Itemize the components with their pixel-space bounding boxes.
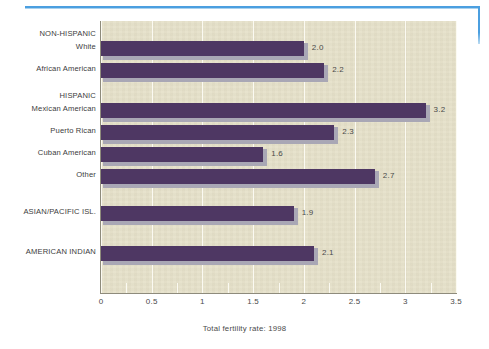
bar-value-label: 1.6 (271, 149, 283, 158)
bar-value-label: 1.9 (302, 208, 314, 217)
minor-tick (202, 283, 203, 293)
x-tick-label: 2 (302, 297, 307, 306)
minor-tick (304, 283, 305, 293)
bar-item: 3.2 (101, 103, 426, 122)
x-tick-label: 1 (200, 297, 205, 306)
bar-item: 2.7 (101, 169, 375, 188)
x-tick-label: 0 (99, 297, 104, 306)
bar (101, 125, 334, 140)
category-label: Cuban American (38, 148, 96, 158)
bar-item: 1.9 (101, 206, 294, 225)
bar-shadow (103, 162, 265, 166)
bar-shadow (103, 78, 326, 82)
bar (101, 206, 294, 221)
x-tick-label: 2.5 (349, 297, 361, 306)
category-label: Puerto Rican (50, 126, 96, 136)
bar (101, 169, 375, 184)
bar (101, 147, 263, 162)
minor-tick (101, 283, 102, 293)
bar (101, 41, 304, 56)
gridline (456, 21, 457, 293)
minor-tick (355, 283, 356, 293)
x-axis-spine (100, 293, 457, 294)
bar-value-label: 2.7 (383, 171, 395, 180)
x-tick-label: 0.5 (146, 297, 158, 306)
x-tick-label: 3.5 (450, 297, 462, 306)
bar-value-label: 2.1 (322, 248, 334, 257)
bar-shadow (103, 140, 336, 144)
minor-tick (431, 283, 432, 293)
minor-tick (177, 283, 178, 293)
bar-shadow (103, 56, 306, 60)
x-tick-label: 3 (403, 297, 408, 306)
bar-item: 1.6 (101, 147, 263, 166)
category-label-group: NON-HISPANICWhiteAfrican AmericanHISPANI… (0, 0, 96, 349)
minor-tick (152, 283, 153, 293)
minor-tick (329, 283, 330, 293)
gridline (355, 21, 356, 293)
bar-value-label: 2.3 (342, 127, 354, 136)
category-label: HISPANIC (59, 91, 96, 101)
category-label: African American (36, 64, 96, 74)
minor-tick (380, 283, 381, 293)
bar-shadow (103, 221, 296, 225)
category-label: Mexican American (32, 104, 96, 114)
bar (101, 63, 324, 78)
minor-tick (253, 283, 254, 293)
minor-tick (126, 283, 127, 293)
bar-shadow (103, 261, 316, 265)
bar-value-label: 2.0 (312, 43, 324, 52)
bar-shadow (103, 184, 377, 188)
minor-tick (279, 283, 280, 293)
minor-tick (228, 283, 229, 293)
minor-tick (456, 283, 457, 293)
bar-value-label: 2.2 (332, 65, 344, 74)
bar-item: 2.3 (101, 125, 334, 144)
bar-item: 2.2 (101, 63, 324, 82)
minor-tick (405, 283, 406, 293)
category-label: NON-HISPANIC (39, 29, 96, 39)
x-tick-label: 1.5 (247, 297, 259, 306)
bar-item: 2.1 (101, 246, 314, 265)
bar-value-label: 3.2 (434, 105, 446, 114)
fertility-rate-bar-chart: 00.511.522.533.5 NON-HISPANICWhiteAfrica… (0, 0, 489, 349)
gridline (405, 21, 406, 293)
category-label: ASIAN/PACIFIC ISL. (23, 207, 96, 217)
bar-shadow (103, 118, 428, 122)
bar (101, 103, 426, 118)
category-label: AMERICAN INDIAN (26, 247, 96, 257)
bar (101, 246, 314, 261)
x-axis-caption: Total fertility rate: 1998 (0, 324, 489, 333)
category-label: White (76, 42, 96, 52)
category-label: Other (76, 170, 96, 180)
bar-item: 2.0 (101, 41, 304, 60)
